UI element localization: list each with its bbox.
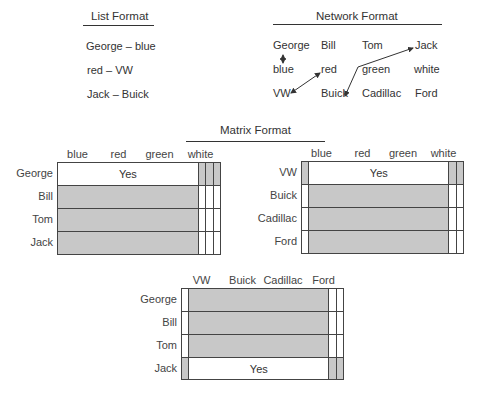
matrix-cell — [329, 289, 336, 312]
row-header: Bill — [120, 316, 177, 328]
matrix-cell — [206, 186, 213, 209]
link-jack-buick — [345, 48, 413, 96]
link-red-vw — [291, 73, 320, 93]
matrix-cell — [302, 208, 309, 231]
matrix-cell — [449, 208, 456, 231]
column-header: blue — [301, 147, 342, 159]
matrix-cell-shaded — [309, 185, 449, 208]
column-header: Buick — [222, 274, 263, 286]
matrix-cell-shaded — [329, 358, 336, 380]
matrix-cell — [198, 209, 205, 232]
matrix-cell-shaded — [189, 289, 329, 312]
row-header: Ford — [240, 235, 297, 247]
matrix-cell — [449, 185, 456, 208]
matrix-cell-shaded — [206, 163, 213, 186]
matrix-cell-shaded — [58, 232, 199, 255]
matrix-cell — [329, 335, 336, 358]
column-header: white — [180, 148, 221, 160]
matrix-format-title: Matrix Format — [220, 124, 291, 136]
matrix-cell — [336, 312, 343, 335]
matrix-cell — [198, 186, 205, 209]
matrix-cell — [449, 231, 456, 254]
matrix-cell-shaded — [456, 162, 463, 185]
matrix-cell-shaded — [302, 162, 309, 185]
matrix-cell — [206, 209, 213, 232]
row-header: Jack — [0, 236, 53, 248]
matrix-cell — [302, 185, 309, 208]
matrix-cell — [329, 312, 336, 335]
matrix-cell: Yes — [58, 163, 199, 186]
column-header: white — [423, 147, 464, 159]
row-header: Jack — [120, 362, 177, 374]
matrix-cell — [182, 312, 189, 335]
matrix-cell-shaded — [309, 208, 449, 231]
column-header: red — [342, 147, 383, 159]
matrix-cell-shaded — [182, 358, 189, 380]
matrix-cell-shaded — [336, 358, 343, 380]
column-header: Ford — [303, 274, 344, 286]
matrix-cell-shaded — [213, 163, 220, 186]
column-header: blue — [57, 148, 98, 160]
row-header: Buick — [240, 189, 297, 201]
matrix-cell — [302, 231, 309, 254]
matrix-cell — [456, 208, 463, 231]
matrix-cell — [182, 335, 189, 358]
matrix-cell-shaded — [58, 186, 199, 209]
row-header: VW — [240, 166, 297, 178]
matrix-cell-shaded — [189, 335, 329, 358]
column-header: green — [139, 148, 180, 160]
column-header: VW — [181, 274, 222, 286]
matrix-cell — [182, 289, 189, 312]
row-header: Tom — [0, 213, 53, 225]
matrix-cell — [456, 231, 463, 254]
matrix-cell-shaded — [58, 209, 199, 232]
matrix-cell-shaded — [198, 163, 205, 186]
matrix-cell — [213, 232, 220, 255]
matrix-cell — [213, 186, 220, 209]
row-header: George — [0, 167, 53, 179]
row-header: Cadillac — [240, 212, 297, 224]
column-header: red — [98, 148, 139, 160]
column-header: green — [383, 147, 423, 159]
matrix-cell-shaded — [309, 231, 449, 254]
matrix-cell — [336, 289, 343, 312]
matrix-cell-shaded — [449, 162, 456, 185]
matrix-cell-shaded — [189, 312, 329, 335]
row-header: Bill — [0, 190, 53, 202]
matrix-cell — [206, 232, 213, 255]
row-header: George — [120, 293, 177, 305]
matrix-format-underline — [186, 141, 325, 142]
row-header: Tom — [120, 339, 177, 351]
matrix-cell — [198, 232, 205, 255]
column-header: Cadillac — [263, 274, 303, 286]
matrix-cell — [456, 185, 463, 208]
matrix-cell: Yes — [189, 358, 329, 380]
matrix-cell — [213, 209, 220, 232]
matrix-cell — [336, 335, 343, 358]
matrix-cell: Yes — [309, 162, 449, 185]
